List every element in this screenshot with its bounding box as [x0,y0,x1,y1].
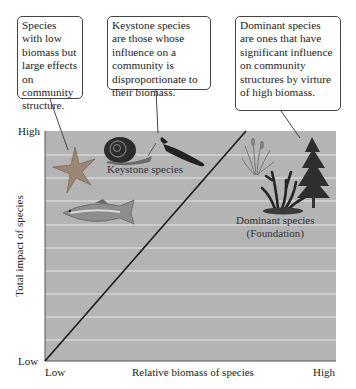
pointer-keystone [156,90,158,133]
dominant-species-label-line1: Dominant species [236,214,315,227]
conifer-tree-icon [297,137,330,208]
sea-otter-icon [160,137,204,166]
dominant-species-label-line2: (Foundation) [236,227,315,240]
keystone-species-label: Keystone species [107,163,183,176]
grass-icon [242,138,274,175]
diagram-graphics [0,0,356,389]
snail-icon [104,137,156,165]
fish-icon [63,199,134,224]
pointer-low-biomass [50,99,68,150]
pointer-dominant [281,111,300,138]
sea-star-icon [53,147,95,193]
dominant-species-label: Dominant species (Foundation) [236,214,315,240]
